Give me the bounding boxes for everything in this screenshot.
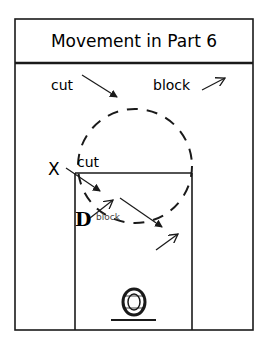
play-diagram: Movement in Part 6 cut block X cut D blo… <box>0 0 266 351</box>
block-arrow-lower <box>156 234 178 250</box>
block-annotation: block <box>96 212 121 222</box>
cut-annotation: cut <box>77 154 100 170</box>
player-x: X <box>48 159 60 179</box>
diagram-title: Movement in Part 6 <box>51 31 217 51</box>
legend-block-arrow <box>202 78 225 90</box>
x-cut-arrow <box>66 168 100 191</box>
legend-cut-label: cut <box>51 77 74 93</box>
legend-cut-arrow <box>82 75 117 97</box>
legend-block-label: block <box>153 77 191 93</box>
basket-icon <box>111 289 156 320</box>
player-d: D <box>75 208 91 230</box>
